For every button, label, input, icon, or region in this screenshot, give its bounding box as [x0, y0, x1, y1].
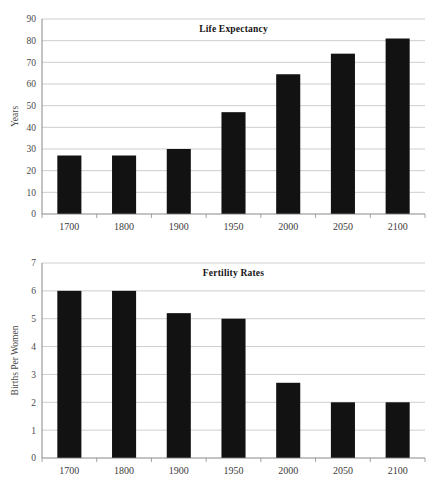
- chart-fertility-rates: 012345671700180019001950200020502100Fert…: [0, 244, 437, 488]
- y-axis-tick-label: 40: [27, 123, 37, 133]
- bar-1800: [112, 291, 136, 458]
- bar-1950: [221, 319, 245, 458]
- x-axis-tick-label: 2000: [278, 465, 298, 476]
- y-axis-tick-label: 2: [31, 398, 36, 408]
- bar-2100: [386, 402, 410, 458]
- y-axis-tick-label: 70: [27, 58, 37, 68]
- y-axis-tick-label: 60: [27, 79, 37, 89]
- y-axis-tick-label: 10: [27, 188, 37, 198]
- x-axis-tick-label: 1800: [114, 221, 134, 232]
- y-axis-tick-label: 90: [27, 14, 37, 24]
- bar-1800: [112, 156, 136, 215]
- bar-2000: [276, 383, 300, 458]
- life-expectancy-plot: 0102030405060708090170018001900195020002…: [0, 0, 437, 244]
- bar-1700: [57, 156, 81, 215]
- y-axis-tick-label: 20: [27, 166, 37, 176]
- x-axis-tick-label: 2000: [278, 221, 298, 232]
- bar-1700: [57, 291, 81, 458]
- y-axis-title: Years: [10, 106, 20, 128]
- bar-1950: [221, 112, 245, 214]
- y-axis-tick-label: 5: [31, 314, 36, 324]
- chart-title: Fertility Rates: [203, 268, 264, 278]
- y-axis-tick-label: 7: [31, 258, 36, 268]
- bar-1900: [167, 149, 191, 214]
- x-axis-tick-label: 1800: [114, 465, 134, 476]
- y-axis-tick-label: 50: [27, 101, 37, 111]
- x-axis-tick-label: 2100: [388, 465, 408, 476]
- y-axis-tick-label: 4: [31, 342, 36, 352]
- bar-2050: [331, 54, 355, 214]
- bar-2050: [331, 402, 355, 458]
- x-axis-tick-label: 2050: [333, 465, 353, 476]
- y-axis-tick-label: 0: [31, 209, 36, 219]
- x-axis-tick-label: 1700: [59, 221, 79, 232]
- chart-life-expectancy: 0102030405060708090170018001900195020002…: [0, 0, 437, 244]
- x-axis-tick-label: 1900: [169, 221, 189, 232]
- y-axis-tick-label: 80: [27, 36, 37, 46]
- y-axis-tick-label: 0: [31, 453, 36, 463]
- x-axis-tick-label: 1900: [169, 465, 189, 476]
- fertility-rates-plot: 012345671700180019001950200020502100Fert…: [0, 244, 437, 488]
- x-axis-tick-label: 2050: [333, 221, 353, 232]
- chart-title: Life Expectancy: [199, 24, 268, 34]
- y-axis-title: Births Per Women: [10, 325, 20, 395]
- x-axis-tick-label: 2100: [388, 221, 408, 232]
- x-axis-tick-label: 1950: [224, 221, 244, 232]
- x-axis-tick-label: 1950: [224, 465, 244, 476]
- bar-1900: [167, 313, 191, 458]
- page-bottom-margin: [0, 479, 437, 488]
- x-axis-tick-label: 1700: [59, 465, 79, 476]
- y-axis-tick-label: 30: [27, 144, 37, 154]
- y-axis-tick-label: 1: [31, 426, 36, 436]
- y-axis-tick-label: 3: [31, 370, 36, 380]
- y-axis-tick-label: 6: [31, 286, 36, 296]
- bar-2000: [276, 74, 300, 214]
- bar-2100: [386, 39, 410, 215]
